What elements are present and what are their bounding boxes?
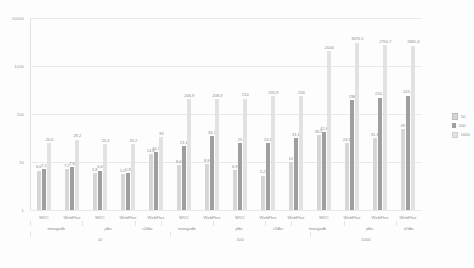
bar-value-label: 206,9 [184, 93, 194, 98]
bar-slot: 2750,7 [383, 18, 388, 210]
bar-slot: 2665,4 [411, 18, 416, 210]
bar-value-label: 3076,5 [351, 36, 363, 41]
bar[interactable]: 2044 [327, 51, 331, 210]
bar[interactable]: 42,8 [322, 132, 326, 210]
bar[interactable]: 5,2 [261, 176, 265, 210]
bar[interactable]: 2665,4 [411, 46, 415, 210]
bar[interactable]: 220,5 [378, 98, 382, 210]
bar[interactable]: 8,9 [205, 164, 209, 210]
bar[interactable]: 3076,5 [355, 43, 359, 210]
bar[interactable]: 24,6 [266, 143, 270, 210]
legend-item[interactable]: 100 [452, 123, 470, 128]
bar[interactable]: 31,3 [373, 138, 377, 210]
bar-slot: 6,6 [36, 18, 41, 210]
bar-cluster: 7,27,829,2 [58, 18, 86, 210]
bar-slot: 31,8 [294, 18, 299, 210]
x-axis-label-database: mongodb [30, 226, 82, 231]
bar[interactable]: 234 [299, 96, 303, 210]
chart-container: 100001000100101 6,67,124,67,27,829,25,86… [0, 0, 474, 268]
bar-cluster: 31,3220,52750,7 [366, 18, 394, 210]
bar-slot: 8,9 [204, 18, 209, 210]
bar-slot: 31,3 [372, 18, 377, 210]
bar-cluster: 24,51983076,5 [338, 18, 366, 210]
x-axis-database-row: mongodbjdbcr2dbcmongodbjdbcr2dbcmongodbj… [30, 226, 422, 231]
bar[interactable]: 21,6 [182, 146, 186, 210]
bar-slot: 24,5 [344, 18, 349, 210]
bar[interactable]: 24,5 [345, 143, 349, 210]
bar[interactable]: 49 [401, 129, 405, 210]
bar[interactable]: 6,6 [98, 171, 102, 210]
x-axis-label-implementation: WebFlux [338, 211, 366, 220]
x-axis-label-database: mongodb [161, 226, 213, 231]
bar[interactable]: 14,8 [149, 154, 153, 210]
bar[interactable]: 5,9 [126, 173, 130, 210]
x-axis-label-implementation: WebFlux [198, 211, 226, 220]
bar-value-label: 24,6 [45, 137, 53, 142]
bar-slot: 7,1 [42, 18, 47, 210]
bar[interactable]: 34,1 [210, 136, 214, 210]
bar-groups: 6,67,124,67,27,829,25,86,623,35,55,923,2… [30, 18, 422, 210]
bar-value-label: 7,8 [69, 161, 75, 166]
bar[interactable]: 24,6 [47, 143, 51, 210]
legend-item[interactable]: 10 [452, 113, 470, 120]
bar-value-label: 23,2 [129, 138, 137, 143]
y-axis-tick-label: 10 [19, 160, 24, 165]
bar[interactable]: 31,8 [294, 138, 298, 210]
bar[interactable]: 2750,7 [383, 45, 387, 210]
bar[interactable]: 10 [289, 162, 293, 210]
legend-label: 10 [461, 114, 466, 119]
bar[interactable]: 23,2 [131, 144, 135, 210]
bar[interactable]: 16,1 [154, 152, 158, 210]
bar-value-label: 5,2 [260, 169, 266, 174]
bar[interactable]: 33 [159, 137, 163, 210]
y-axis-tick-label: 1 [22, 208, 24, 213]
bar[interactable]: 7,2 [65, 169, 69, 210]
bar[interactable]: 7,1 [42, 169, 46, 210]
bar-slot: 5,8 [92, 18, 97, 210]
bar[interactable]: 8,6 [177, 165, 181, 210]
bar-value-label: 6,9 [232, 164, 238, 169]
bar-slot: 6,9 [232, 18, 237, 210]
bar[interactable]: 36,5 [317, 135, 321, 210]
bar-slot: 6,6 [98, 18, 103, 210]
x-axis-label-database: mongodb [291, 226, 343, 231]
bar-cluster: 5,224,6235,9 [254, 18, 282, 210]
bar-value-label: 33 [159, 131, 163, 136]
legend-item[interactable]: 1000 [452, 132, 470, 139]
bar[interactable]: 5,8 [93, 173, 97, 210]
bar[interactable]: 210 [243, 99, 247, 210]
bar-slot: 14,8 [148, 18, 153, 210]
bar-slot: 33 [159, 18, 164, 210]
bar-value-label: 208,3 [212, 93, 222, 98]
bar[interactable]: 6,9 [233, 170, 237, 210]
bar-cluster: 5,86,623,3 [86, 18, 114, 210]
x-axis-label-implementation: WebFlux [58, 211, 86, 220]
bar[interactable]: 25 [238, 143, 242, 210]
bar[interactable]: 208,3 [215, 99, 219, 210]
y-axis-tick-label: 1000 [14, 64, 24, 69]
legend: 101001000 [452, 113, 470, 138]
x-axis-label-implementation: WebFlux [254, 211, 282, 220]
x-axis-label-implementation: MVC [226, 211, 254, 220]
bar[interactable]: 6,6 [37, 171, 41, 210]
bar[interactable]: 7,8 [70, 167, 74, 210]
bar-cluster: 5,55,923,2 [114, 18, 142, 210]
x-axis-label-implementation: WebFlux [114, 211, 142, 220]
bar[interactable]: 23,3 [103, 144, 107, 210]
legend-label: 1000 [461, 132, 470, 137]
bar-slot: 208,3 [215, 18, 220, 210]
bar-slot: 8,6 [176, 18, 181, 210]
bar-cluster: 1031,8234 [282, 18, 310, 210]
bar[interactable]: 5,5 [121, 174, 125, 210]
bar-slot: 7,2 [64, 18, 69, 210]
x-axis-label-database: r2dbc [265, 226, 291, 231]
bar[interactable]: 235,9 [271, 96, 275, 210]
bar-slot: 206,9 [187, 18, 192, 210]
bar[interactable]: 241,8 [406, 96, 410, 210]
bar-value-label: 235,9 [268, 90, 278, 95]
bar-slot: 23,2 [131, 18, 136, 210]
bar[interactable]: 29,2 [75, 140, 79, 210]
bar[interactable]: 198 [350, 100, 354, 210]
bar-slot: 198 [350, 18, 355, 210]
bar[interactable]: 206,9 [187, 99, 191, 210]
